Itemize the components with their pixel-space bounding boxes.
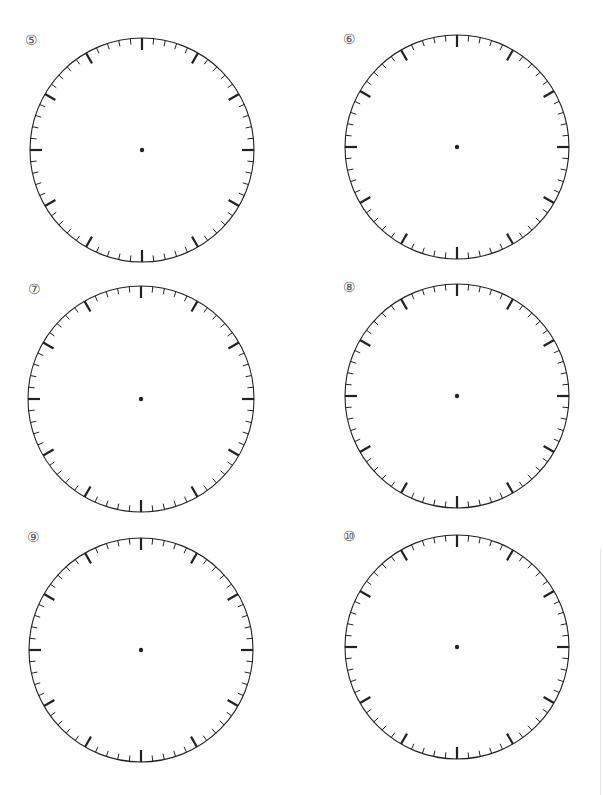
minute-tick xyxy=(561,418,567,419)
minute-tick xyxy=(562,384,568,385)
minute-tick xyxy=(30,661,36,662)
minute-tick xyxy=(239,193,244,195)
minute-tick xyxy=(164,254,165,260)
minute-tick xyxy=(75,736,79,741)
minute-tick xyxy=(528,64,532,68)
minute-tick xyxy=(346,158,352,159)
minute-tick xyxy=(118,504,119,510)
minute-tick xyxy=(31,672,37,673)
minute-tick xyxy=(554,439,559,441)
minute-tick xyxy=(366,581,371,585)
minute-tick xyxy=(374,72,378,76)
minute-tick xyxy=(350,680,356,682)
minute-tick xyxy=(163,540,164,546)
minute-tick xyxy=(153,255,154,261)
minute-tick xyxy=(242,683,248,685)
hour-tick xyxy=(544,91,554,97)
minute-tick xyxy=(174,292,176,298)
minute-tick xyxy=(185,296,187,301)
minute-tick xyxy=(519,556,523,561)
hour-tick xyxy=(228,343,238,349)
hour-tick xyxy=(45,200,55,206)
minute-tick xyxy=(411,744,413,749)
minute-tick xyxy=(374,572,378,576)
hour-tick xyxy=(401,734,407,744)
hour-tick xyxy=(360,91,370,97)
minute-tick xyxy=(247,410,253,411)
minute-tick xyxy=(246,127,252,128)
minute-tick xyxy=(558,112,564,114)
minute-tick xyxy=(35,115,41,117)
minute-tick xyxy=(519,56,523,61)
hour-tick xyxy=(401,299,407,309)
minute-tick xyxy=(221,221,225,225)
minute-tick xyxy=(59,75,63,79)
center-dot xyxy=(140,148,144,152)
minute-tick xyxy=(50,333,55,337)
center-dot xyxy=(139,648,143,652)
minute-tick xyxy=(204,308,208,313)
minute-tick xyxy=(445,252,446,258)
minute-tick xyxy=(175,43,177,49)
minute-tick xyxy=(213,479,217,483)
minute-tick xyxy=(528,313,532,317)
minute-tick xyxy=(203,736,207,741)
minute-tick xyxy=(152,755,153,761)
minute-tick xyxy=(245,672,251,673)
minute-tick xyxy=(562,635,568,636)
minute-tick xyxy=(75,486,79,491)
minute-tick xyxy=(355,601,360,603)
minute-tick xyxy=(30,376,36,377)
minute-tick xyxy=(346,407,352,408)
minute-tick xyxy=(243,432,249,434)
minute-tick xyxy=(500,45,502,50)
minute-tick xyxy=(96,48,98,53)
minute-tick xyxy=(411,45,413,50)
minute-tick xyxy=(163,754,164,760)
minute-tick xyxy=(543,458,548,462)
minute-tick xyxy=(554,190,559,192)
minute-tick xyxy=(350,429,356,431)
minute-tick xyxy=(30,421,36,422)
minute-tick xyxy=(152,505,153,511)
minute-tick xyxy=(543,581,548,585)
minute-tick xyxy=(67,67,71,71)
minute-tick xyxy=(242,615,248,617)
minute-tick xyxy=(129,539,130,545)
minute-tick xyxy=(34,432,40,434)
minute-tick xyxy=(38,443,43,445)
minute-tick xyxy=(39,693,44,695)
hour-tick xyxy=(192,237,198,247)
minute-tick xyxy=(479,251,480,257)
minute-tick xyxy=(228,333,233,337)
minute-tick xyxy=(490,289,492,295)
minute-tick xyxy=(374,218,378,222)
minute-tick xyxy=(347,169,353,170)
hour-tick xyxy=(401,234,407,244)
minute-tick xyxy=(129,505,130,511)
minute-tick xyxy=(29,410,35,411)
minute-tick xyxy=(163,504,164,510)
minute-tick xyxy=(536,467,540,471)
minute-tick xyxy=(411,493,413,498)
minute-tick xyxy=(374,321,378,325)
minute-tick xyxy=(562,658,568,659)
minute-tick xyxy=(411,294,413,299)
minute-tick xyxy=(528,726,532,730)
minute-tick xyxy=(554,101,559,103)
minute-tick xyxy=(422,540,424,546)
hour-tick xyxy=(44,594,54,600)
minute-tick xyxy=(558,612,564,614)
hour-tick xyxy=(85,737,91,747)
hour-tick xyxy=(544,697,554,703)
minute-tick xyxy=(422,40,424,46)
minute-tick xyxy=(445,501,446,507)
minute-tick xyxy=(519,733,523,738)
minute-tick xyxy=(366,81,371,85)
hour-tick xyxy=(228,450,238,456)
minute-tick xyxy=(562,135,568,136)
minute-tick xyxy=(434,251,435,257)
minute-tick xyxy=(382,313,386,317)
minute-tick xyxy=(246,376,252,377)
minute-tick xyxy=(468,501,469,507)
